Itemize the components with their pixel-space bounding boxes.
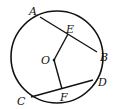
segment-of xyxy=(54,60,62,89)
diagram-canvas: A B C D E F O xyxy=(0,0,115,109)
center-point-o xyxy=(53,59,56,62)
label-o: O xyxy=(41,54,50,67)
label-f: F xyxy=(59,91,68,104)
segment-oe xyxy=(54,34,68,60)
label-d: D xyxy=(97,76,107,89)
label-b: B xyxy=(99,51,108,64)
label-c: C xyxy=(17,95,26,108)
geometry-diagram: A B C D E F O xyxy=(0,0,115,109)
label-a: A xyxy=(28,5,37,18)
label-e: E xyxy=(65,23,74,36)
